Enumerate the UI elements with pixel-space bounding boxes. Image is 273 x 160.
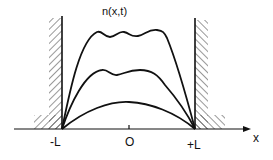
curve-early (62, 102, 195, 129)
x-axis-label: x (253, 131, 259, 145)
diagram-canvas (0, 0, 273, 160)
plot-title: n(x,t) (102, 5, 127, 17)
right-wall (195, 18, 225, 129)
tick-label-origin: O (125, 135, 134, 149)
tick-label-plus-l: +L (187, 138, 201, 152)
left-wall (34, 16, 62, 129)
curve-intermediate (62, 70, 195, 129)
curve-late (62, 30, 195, 129)
tick-label-minus-l: -L (50, 135, 61, 149)
